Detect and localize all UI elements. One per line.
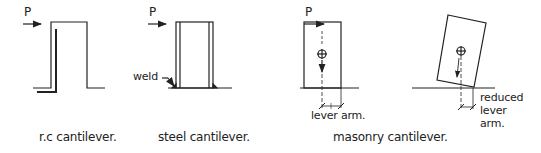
- rc-caption: r.c cantilever.: [39, 130, 117, 144]
- reduced-label: reduced: [480, 91, 523, 104]
- load-label: P: [149, 5, 156, 19]
- rc-cantilever: [23, 22, 105, 92]
- masonry-cantilever-upright: [300, 22, 359, 109]
- lever-arm-label: lever arm.: [311, 109, 365, 122]
- weld-icon: [213, 84, 217, 88]
- rebar: [37, 29, 56, 92]
- steel-caption: steel cantilever.: [158, 130, 250, 144]
- lever-label: lever: [480, 104, 507, 117]
- masonry-caption: masonry cantilever.: [333, 130, 448, 144]
- load-label: P: [305, 5, 312, 19]
- weld-pointer-icon: [168, 78, 174, 86]
- weight-arrow-icon: [457, 58, 459, 77]
- rc-outline: [33, 22, 105, 88]
- load-label: P: [24, 5, 31, 19]
- weld-label: weld: [133, 70, 158, 83]
- arm-label: arm.: [480, 117, 504, 130]
- steel-section: [176, 22, 213, 88]
- steel-cantilever: [148, 22, 232, 88]
